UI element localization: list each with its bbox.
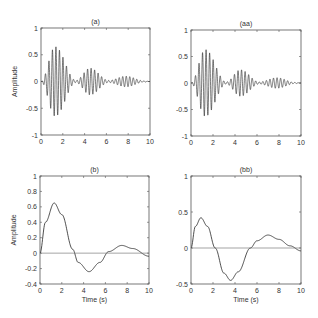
panel-a: 024681010.50-0.5-1(a)Amplitude xyxy=(11,18,154,145)
x-tick-label: 0 xyxy=(38,287,42,294)
x-tick-label: 4 xyxy=(233,287,237,294)
x-tick-label: 10 xyxy=(145,287,153,294)
x-tick-label: 0 xyxy=(189,287,193,294)
y-tick-label: -0.5 xyxy=(176,281,188,288)
x-tick-label: 6 xyxy=(255,139,259,146)
panel-bb: 024681010.50-0.5(bb)Time (s) xyxy=(176,166,305,304)
y-tick-label: 0.4 xyxy=(27,219,37,226)
x-axis-label: Time (s) xyxy=(233,296,258,304)
x-tick-label: 2 xyxy=(211,139,215,146)
x-tick-label: 4 xyxy=(83,138,87,145)
y-tick-label: 0.5 xyxy=(178,53,188,60)
x-tick-label: 10 xyxy=(146,138,154,145)
x-tick-label: 2 xyxy=(60,287,64,294)
figure: 024681010.50-0.5-1(a)Amplitude024681010.… xyxy=(0,0,318,318)
x-tick-label: 0 xyxy=(189,139,193,146)
y-tick-label: 0 xyxy=(34,78,38,85)
y-tick-label: -0.2 xyxy=(25,265,37,272)
y-tick-label: 0.2 xyxy=(27,234,37,241)
signal-line xyxy=(41,47,150,116)
x-tick-label: 10 xyxy=(297,139,305,146)
x-tick-label: 8 xyxy=(277,287,281,294)
x-axis-label: Time (s) xyxy=(82,296,107,304)
y-tick-label: 1 xyxy=(184,173,188,180)
y-tick-label: 0.8 xyxy=(27,188,37,195)
x-tick-label: 6 xyxy=(104,138,108,145)
y-tick-label: -0.4 xyxy=(25,281,37,288)
x-tick-label: 4 xyxy=(82,287,86,294)
panel-title: (bb) xyxy=(240,166,252,174)
response-line xyxy=(40,203,149,272)
x-tick-label: 8 xyxy=(126,138,130,145)
chart-canvas: 024681010.50-0.5-1(a)Amplitude024681010.… xyxy=(0,0,318,318)
y-tick-label: -1 xyxy=(32,132,38,139)
y-tick-label: -0.5 xyxy=(176,106,188,113)
x-tick-label: 10 xyxy=(297,287,305,294)
panel-title: (a) xyxy=(91,18,100,26)
y-tick-label: -1 xyxy=(182,133,188,140)
x-tick-label: 8 xyxy=(277,139,281,146)
x-tick-label: 6 xyxy=(103,287,107,294)
x-tick-label: 2 xyxy=(211,287,215,294)
panel-b: 024681010.80.60.40.20-0.2-0.4(b)Amplitud… xyxy=(10,166,153,304)
panel-title: (b) xyxy=(90,166,99,174)
y-tick-label: 0.5 xyxy=(178,209,188,216)
y-axis-label: Amplitude xyxy=(10,214,18,245)
x-tick-label: 8 xyxy=(125,287,129,294)
response-line xyxy=(191,218,301,281)
axes-frame xyxy=(40,176,149,284)
x-tick-label: 2 xyxy=(61,138,65,145)
y-tick-label: 0.5 xyxy=(28,51,38,58)
x-tick-label: 6 xyxy=(255,287,259,294)
panel-aa: 024681010.50-0.5-1(aa) xyxy=(176,20,305,146)
x-tick-label: 0 xyxy=(39,138,43,145)
y-tick-label: 1 xyxy=(34,25,38,32)
signal-line xyxy=(191,50,301,116)
y-tick-label: 1 xyxy=(33,173,37,180)
y-tick-label: 0 xyxy=(33,250,37,257)
y-axis-label: Amplitude xyxy=(11,66,19,97)
y-tick-label: 0 xyxy=(184,80,188,87)
y-tick-label: 1 xyxy=(184,27,188,34)
x-tick-label: 4 xyxy=(233,139,237,146)
y-tick-label: -0.5 xyxy=(26,105,38,112)
y-tick-label: 0 xyxy=(184,245,188,252)
axes-frame xyxy=(191,176,301,284)
panel-title: (aa) xyxy=(240,20,252,28)
y-tick-label: 0.6 xyxy=(27,203,37,210)
